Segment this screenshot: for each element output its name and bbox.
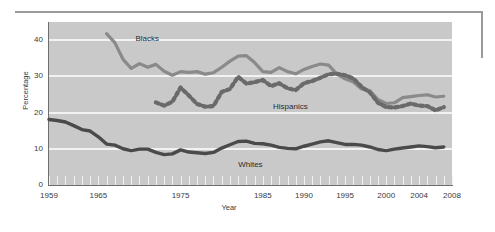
right-divider-rule (481, 11, 483, 58)
x-tick-label-1985: 1985 (243, 191, 283, 200)
plot-area: Blacks Hispanics Whites (49, 22, 452, 185)
x-tick-label-1965: 1965 (78, 191, 118, 200)
series-label-hispanics: Hispanics (273, 102, 308, 111)
chart-figure: Blacks Hispanics Whites 010203040 195919… (0, 0, 495, 232)
y-tick-label-0: 0 (13, 181, 43, 189)
x-tick-label-1975: 1975 (161, 191, 201, 200)
y-axis-title: Percentage (21, 61, 30, 121)
x-tick-label-1995: 1995 (325, 191, 365, 200)
tick-2008 (452, 176, 453, 185)
x-axis-title: Year (199, 203, 259, 212)
y-tick-label-40: 40 (13, 36, 43, 44)
top-divider-rule (15, 11, 483, 13)
series-label-whites: Whites (238, 160, 262, 169)
series-line-whites (49, 119, 444, 154)
x-tick-label-2008: 2008 (432, 191, 472, 200)
series-line-blacks (107, 34, 444, 104)
y-tick-label-10: 10 (13, 145, 43, 153)
x-tick-label-1959: 1959 (29, 191, 69, 200)
x-axis-line (48, 185, 453, 186)
x-tick-label-1990: 1990 (284, 191, 324, 200)
series-label-blacks: Blacks (135, 34, 159, 43)
